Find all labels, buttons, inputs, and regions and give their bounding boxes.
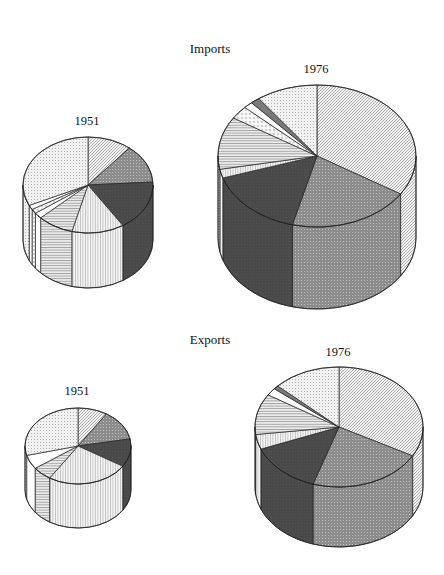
exports-1976-cylinder-pie [255,367,423,547]
pie-charts-canvas [0,0,444,575]
imports-1976-cylinder-pie [218,85,416,309]
side-wall-sparse_dots [32,209,35,268]
side-wall-vertical [72,226,123,288]
imports-1951-cylinder-pie [23,137,153,288]
side-wall-vertical [220,169,223,260]
side-wall-white [29,205,32,264]
exports-1951-cylinder-pie [25,408,131,528]
side-wall-white [35,213,40,273]
